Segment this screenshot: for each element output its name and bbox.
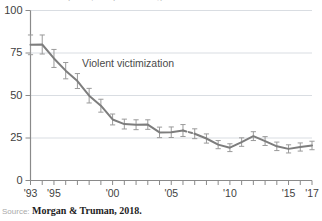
svg-text:50: 50 bbox=[10, 89, 22, 101]
x-axis-tick-labels: '93'95'00'05'10'15'17 bbox=[24, 187, 319, 199]
svg-text:0: 0 bbox=[16, 174, 22, 186]
series-annotation: Violent victimization bbox=[82, 57, 174, 69]
chart-figure: Rate per 1,000 persons age 12 or older 0… bbox=[0, 0, 322, 221]
svg-text:'95: '95 bbox=[47, 187, 61, 199]
source-prefix: Source: bbox=[2, 207, 30, 216]
y-axis-tick-labels: 0255075100 bbox=[4, 4, 22, 186]
svg-text:'00: '00 bbox=[106, 187, 120, 199]
svg-text:100: 100 bbox=[4, 4, 22, 16]
svg-text:'10: '10 bbox=[223, 187, 237, 199]
svg-text:'05: '05 bbox=[164, 187, 178, 199]
y-axis-ticks bbox=[26, 11, 31, 181]
svg-text:'17: '17 bbox=[305, 187, 319, 199]
source-citation: Morgan & Truman, 2018. bbox=[32, 205, 142, 216]
svg-text:'15: '15 bbox=[282, 187, 296, 199]
gridlines bbox=[31, 11, 313, 181]
annotation-violent-victimization: Violent victimization bbox=[82, 57, 174, 69]
svg-text:'93: '93 bbox=[24, 187, 38, 199]
source-note: Source: Morgan & Truman, 2018. bbox=[2, 205, 142, 217]
x-axis-ticks bbox=[31, 181, 313, 186]
violent-victimization-line-chart: 0255075100 '93'95'00'05'10'15'17 Violent… bbox=[0, 0, 322, 200]
svg-text:25: 25 bbox=[10, 131, 22, 143]
svg-text:75: 75 bbox=[10, 46, 22, 58]
